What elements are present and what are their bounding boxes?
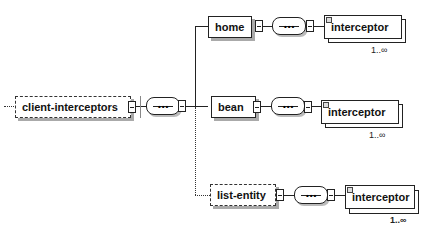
element-label: bean [218, 101, 244, 113]
element-home[interactable]: home [208, 16, 252, 38]
collapse-toggle-icon[interactable] [128, 101, 136, 113]
spine-solid [195, 26, 196, 106]
sequence-compositor-icon[interactable]: ••• [146, 97, 180, 115]
collapse-toggle-icon[interactable] [276, 189, 284, 201]
element-list-entity[interactable]: list-entity [210, 184, 276, 206]
attributes-icon [326, 17, 332, 23]
separator [140, 96, 141, 118]
collapse-toggle-icon[interactable] [306, 20, 314, 32]
multiplicity: 1..∞ [390, 215, 406, 225]
connector [261, 106, 271, 107]
element-bean[interactable]: bean [211, 96, 256, 118]
collapse-toggle-icon[interactable] [255, 20, 263, 32]
collapse-toggle-icon[interactable] [178, 100, 186, 112]
connector [284, 195, 294, 196]
connector [263, 26, 272, 27]
connector [195, 26, 208, 27]
connector [195, 195, 210, 196]
connector [186, 106, 195, 107]
element-label: home [215, 21, 244, 33]
attributes-icon [323, 102, 329, 108]
element-label: interceptor [331, 21, 388, 33]
collapse-toggle-icon[interactable] [304, 101, 312, 113]
element-label: interceptor [352, 191, 409, 203]
element-client-interceptors[interactable]: client-interceptors [15, 96, 131, 118]
connector [195, 106, 208, 107]
connector [335, 195, 345, 196]
connector [314, 26, 324, 27]
sequence-compositor-icon[interactable]: ••• [294, 186, 328, 204]
multiplicity: 1..∞ [371, 45, 387, 55]
element-label: list-entity [217, 189, 266, 201]
sequence-compositor-icon[interactable]: ••• [271, 97, 305, 115]
multiplicity: 1..∞ [369, 130, 385, 140]
element-interceptor[interactable]: interceptor [324, 15, 402, 39]
sequence-compositor-icon[interactable]: ••• [272, 17, 306, 35]
connector [136, 106, 146, 107]
element-interceptor[interactable]: interceptor [321, 100, 399, 124]
element-label: client-interceptors [22, 101, 118, 113]
collapse-toggle-icon[interactable] [327, 189, 335, 201]
element-interceptor[interactable]: interceptor [345, 185, 415, 209]
spine-dotted [195, 107, 196, 195]
collapse-toggle-icon[interactable] [253, 101, 261, 113]
element-label: interceptor [328, 106, 385, 118]
attributes-icon [347, 187, 353, 193]
